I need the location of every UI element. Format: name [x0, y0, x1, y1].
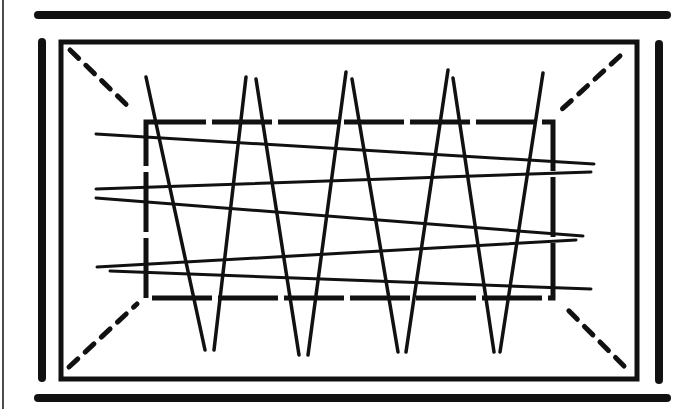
zigzag-line — [406, 70, 448, 352]
zigzag-lines — [146, 70, 543, 355]
zigzag-line — [146, 77, 205, 350]
frames — [61, 42, 637, 379]
zigzag-line — [214, 77, 246, 350]
dashed-diagonal — [70, 50, 132, 110]
horizontal-line — [96, 134, 594, 164]
dashed-diagonal — [560, 56, 620, 111]
horizontal-line — [97, 240, 576, 267]
zigzag-line — [453, 78, 494, 352]
horizontal-lines — [96, 134, 594, 289]
dashed-diagonal — [69, 304, 137, 367]
zigzag-line — [500, 73, 543, 352]
dashed-diagonal — [564, 306, 624, 366]
outer-bars — [3, 0, 667, 409]
horizontal-line — [110, 271, 591, 289]
horizontal-line — [96, 198, 583, 236]
line-diagram — [0, 0, 698, 409]
